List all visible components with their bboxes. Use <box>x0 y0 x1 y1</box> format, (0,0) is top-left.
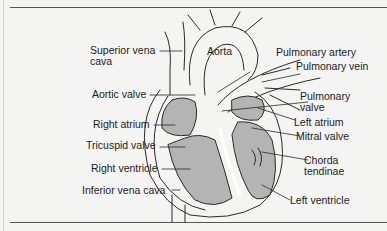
label-left-ventricle: Left ventricle <box>290 195 350 206</box>
label-left-atrium: Left atrium <box>294 117 344 128</box>
label-aorta: Aorta <box>207 46 232 57</box>
label-pulmonary-vein: Pulmonary vein <box>296 61 368 72</box>
aorta-branches <box>188 10 262 32</box>
label-aortic-valve: Aortic valve <box>92 89 146 100</box>
aorta-shape <box>189 27 258 95</box>
right-atrium-shape <box>162 98 197 136</box>
label-superior-vena-cava-line2: cava <box>90 56 155 67</box>
label-tricuspid-valve: Tricuspid valve <box>86 140 156 151</box>
label-inferior-vena-cava: Inferior vena cava <box>82 185 165 196</box>
label-mitral-valve: Mitral valve <box>296 131 349 142</box>
label-pulmonary-valve: Pulmonary valve <box>300 91 350 113</box>
label-right-ventricle: Right ventricle <box>91 163 158 174</box>
label-superior-vena-cava: Superior vena cava <box>90 45 155 67</box>
superior-vena-cava-shape <box>165 22 185 95</box>
label-right-atrium: Right atrium <box>93 119 150 130</box>
label-chorda-tendinae-line2: tendinae <box>304 166 344 177</box>
label-pulmonary-artery: Pulmonary artery <box>276 47 356 58</box>
label-chorda-tendinae: Chorda tendinae <box>304 155 344 177</box>
label-pulmonary-valve-line2: valve <box>300 102 350 113</box>
